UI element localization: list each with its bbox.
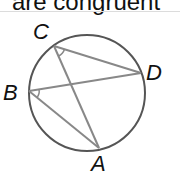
chord-bd [29,73,141,91]
inscribed-angles-diagram: C D B A [0,0,180,172]
angle-mark-c [59,49,65,56]
chord-ba [29,91,99,148]
label-d: D [146,60,162,85]
label-c: C [33,19,49,44]
circle [29,35,145,151]
label-b: B [3,80,18,105]
chord-cd [54,46,141,73]
chord-ca [54,46,99,148]
label-a: A [89,151,106,172]
